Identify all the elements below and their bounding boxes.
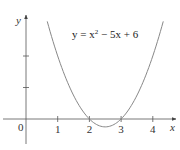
x-tick-label: 1 [55, 123, 61, 135]
equation-suffix: − 5x + 6 [98, 28, 138, 40]
x-tick-label: 4 [150, 123, 156, 135]
x-axis-label: x [169, 121, 175, 133]
x-tick-label: 3 [118, 123, 124, 135]
origin-label: 0 [18, 121, 24, 133]
equation-prefix: y = x [72, 28, 95, 40]
equation-annotation: y = x2 − 5x + 6 [72, 28, 139, 40]
x-tick-label: 2 [87, 123, 93, 135]
y-axis-label: y [15, 14, 21, 26]
parabola-chart: y = x2 − 5x + 6 y x 0 1234 [0, 0, 180, 150]
